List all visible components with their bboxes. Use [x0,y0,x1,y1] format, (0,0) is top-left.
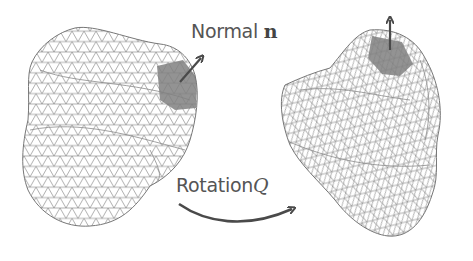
rotation-arrow-icon [179,204,292,222]
figure-canvas: Normal n RotationQ [0,0,473,261]
normal-label: Normal n [191,20,277,42]
normal-text: Normal [191,20,258,42]
rotated-mesh [270,0,473,261]
rotation-label: RotationQ [176,174,268,196]
rotation-symbol: Q [253,174,268,196]
normal-symbol: n [264,20,278,42]
rotation-text: Rotation [176,174,253,196]
